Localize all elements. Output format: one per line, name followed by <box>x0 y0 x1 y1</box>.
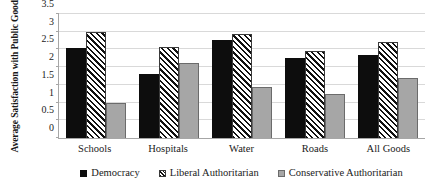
legend-label: Conservative Authoritarian <box>289 167 403 179</box>
bar-groups <box>59 14 425 138</box>
x-axis-category-label: Water <box>205 142 278 158</box>
bar <box>212 40 232 138</box>
legend-swatch-icon <box>278 170 285 177</box>
legend: DemocracyLiberal AuthoritarianConservati… <box>58 164 425 182</box>
y-axis-tick-label: 1.5 <box>42 68 55 79</box>
legend-swatch-icon <box>159 170 166 177</box>
bar-group <box>279 14 352 138</box>
bar-group <box>59 14 132 138</box>
legend-label: Liberal Authoritarian <box>170 167 259 179</box>
x-axis-categories: SchoolsHospitalsWaterRoadsAll Goods <box>58 142 425 158</box>
bar <box>252 87 272 138</box>
bar <box>106 103 126 138</box>
legend-item[interactable]: Liberal Authoritarian <box>159 167 259 179</box>
bar <box>179 63 199 138</box>
legend-item[interactable]: Democracy <box>80 167 139 179</box>
y-axis-tick-label: 0.5 <box>42 104 55 115</box>
y-axis-title: Average Satisfaction with Public Goods <box>0 0 32 148</box>
bar <box>325 94 345 138</box>
legend-label: Democracy <box>91 167 139 179</box>
bar <box>232 34 252 138</box>
bar <box>66 48 86 138</box>
bar <box>305 51 325 138</box>
bar <box>398 78 418 138</box>
y-axis-tick-label: 2.5 <box>42 33 55 44</box>
legend-item[interactable]: Conservative Authoritarian <box>278 167 403 179</box>
x-axis-category-label: All Goods <box>352 142 425 158</box>
bar-group <box>205 14 278 138</box>
y-axis-tick-label: 2 <box>49 51 54 62</box>
bar <box>139 74 159 138</box>
y-axis-tick-label: 3 <box>49 15 54 26</box>
y-axis-title-text: Average Satisfaction with Public Goods <box>11 0 22 152</box>
bar <box>285 58 305 138</box>
bar <box>159 47 179 138</box>
y-axis-tick-label: 1 <box>49 86 54 97</box>
bar-chart: Average Satisfaction with Public Goods 0… <box>0 0 431 186</box>
x-axis-category-label: Hospitals <box>131 142 204 158</box>
x-axis-category-label: Roads <box>278 142 351 158</box>
bar-group <box>132 14 205 138</box>
legend-swatch-icon <box>80 170 87 177</box>
y-axis-tick-label: 0 <box>49 122 54 133</box>
bar <box>378 42 398 138</box>
x-axis-category-label: Schools <box>58 142 131 158</box>
y-axis-tick-label: 3.5 <box>42 0 55 9</box>
bar-group <box>352 14 425 138</box>
bar <box>86 32 106 138</box>
bar <box>358 55 378 138</box>
plot-area: 00.511.522.533.5 <box>58 14 425 139</box>
